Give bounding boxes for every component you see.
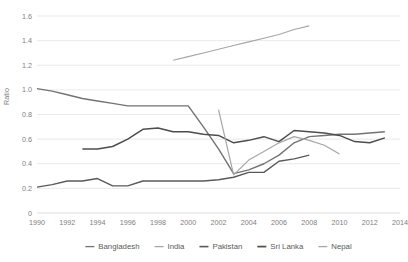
series-line-bangladesh — [37, 89, 385, 174]
y-tick-label: 1.0 — [22, 85, 32, 94]
y-tick-label: 0.6 — [22, 135, 32, 144]
legend-label-sri-lanka: Sri Lanka — [270, 242, 304, 251]
legend-label-nepal: Nepal — [331, 242, 352, 251]
data-series — [37, 26, 385, 187]
x-tick-label: 2010 — [332, 218, 348, 227]
x-tick-label: 2014 — [392, 218, 408, 227]
x-tick-label: 1998 — [150, 218, 166, 227]
x-tick-label: 2012 — [362, 218, 378, 227]
legend-label-india: India — [168, 242, 186, 251]
y-tick-label: 1.2 — [22, 61, 32, 70]
legend-label-bangladesh: Bangladesh — [98, 242, 139, 251]
legend-label-pakistan: Pakistan — [212, 242, 242, 251]
y-tick-label: 0.2 — [22, 184, 32, 193]
y-tick-label: 1.6 — [22, 12, 32, 21]
x-tick-label: 2004 — [241, 218, 257, 227]
y-axis-tick-labels: 00.20.40.60.81.01.21.41.6 — [22, 12, 32, 218]
x-tick-label: 1990 — [29, 218, 45, 227]
y-tick-label: 0 — [28, 209, 32, 218]
x-axis-tick-labels: 1990199219941996199820002002200420062008… — [29, 218, 408, 227]
x-tick-label: 1996 — [120, 218, 136, 227]
chart-legend: BangladeshIndiaPakistanSri LankaNepal — [85, 242, 352, 251]
x-tick-label: 2008 — [301, 218, 317, 227]
x-tick-label: 2002 — [211, 218, 227, 227]
x-tick-label: 2006 — [271, 218, 287, 227]
series-line-india — [173, 26, 309, 60]
chart-canvas: 00.20.40.60.81.01.21.41.6 19901992199419… — [0, 0, 408, 262]
gridlines — [37, 16, 400, 213]
series-line-sri-lanka — [82, 128, 385, 149]
y-tick-label: 0.4 — [22, 159, 32, 168]
x-tick-label: 1994 — [90, 218, 106, 227]
x-tick-label: 1992 — [59, 218, 75, 227]
x-tick-label: 2000 — [180, 218, 196, 227]
y-tick-label: 0.8 — [22, 110, 32, 119]
series-line-pakistan — [37, 155, 309, 187]
y-axis-title: Ratio — [2, 88, 11, 105]
line-chart: 00.20.40.60.81.01.21.41.6 19901992199419… — [0, 0, 408, 262]
y-tick-label: 1.4 — [22, 36, 32, 45]
